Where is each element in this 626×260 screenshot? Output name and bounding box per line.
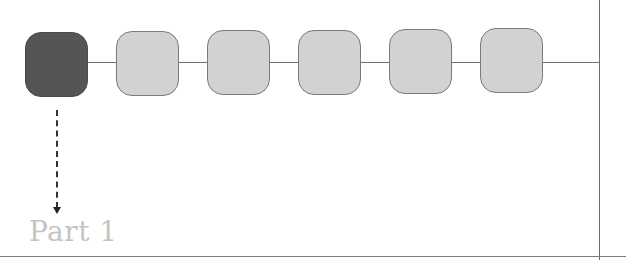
timeline-node-2[interactable] bbox=[116, 31, 179, 96]
timeline-node-4[interactable] bbox=[298, 30, 361, 95]
arrow-down-icon bbox=[53, 207, 61, 214]
dashed-pointer-line bbox=[56, 110, 58, 208]
right-border-line bbox=[599, 0, 600, 260]
timeline-node-5[interactable] bbox=[389, 29, 452, 94]
timeline-node-1[interactable] bbox=[25, 32, 88, 97]
bottom-border-line bbox=[0, 256, 626, 257]
part-label: Part 1 bbox=[29, 218, 118, 246]
timeline-diagram: Part 1 bbox=[0, 0, 626, 260]
timeline-node-3[interactable] bbox=[207, 30, 270, 95]
timeline-node-6[interactable] bbox=[480, 28, 543, 93]
